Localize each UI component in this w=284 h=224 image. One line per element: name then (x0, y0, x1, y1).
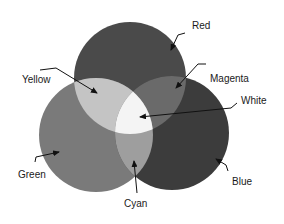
label-magenta: Magenta (210, 73, 249, 84)
label-blue: Blue (232, 176, 252, 187)
color-venn-diagram: Red Yellow Magenta White Green Blue Cyan (0, 0, 284, 224)
label-white: White (241, 95, 267, 106)
label-red: Red (192, 20, 210, 31)
label-green: Green (18, 169, 46, 180)
label-cyan: Cyan (124, 198, 147, 209)
venn-svg: Red Yellow Magenta White Green Blue Cyan (0, 0, 284, 224)
label-yellow: Yellow (22, 74, 51, 85)
